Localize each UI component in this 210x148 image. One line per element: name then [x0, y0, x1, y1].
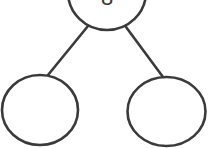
edge-root-left: [48, 26, 88, 75]
node-right-child: [128, 77, 206, 146]
node-root: 8: [68, 0, 146, 30]
node-root-label: 8: [101, 0, 113, 10]
node-left-circle: [2, 75, 78, 145]
node-right-circle: [128, 77, 206, 146]
edge-root-right: [126, 27, 163, 77]
node-left-child: [2, 75, 78, 145]
tree-diagram: 8: [0, 0, 210, 148]
